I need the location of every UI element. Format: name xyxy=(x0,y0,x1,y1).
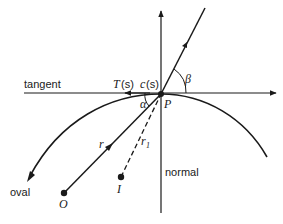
point-I xyxy=(118,174,124,180)
I-label: I xyxy=(116,182,122,196)
oval-arrow-head xyxy=(27,171,35,182)
T-arg-label: (s) xyxy=(121,78,134,90)
normal-label: normal xyxy=(165,166,199,178)
r1-sub-label: 1 xyxy=(146,141,150,150)
refracted-ray xyxy=(161,8,205,94)
beta-label: β xyxy=(184,72,191,86)
P-label: P xyxy=(163,97,172,111)
tangent-label: tangent xyxy=(24,78,61,90)
oval-label: oval xyxy=(10,186,30,198)
O-label: O xyxy=(59,197,68,211)
r-label: r xyxy=(99,137,104,151)
T-label: T xyxy=(113,77,121,91)
c-arg-label: (s) xyxy=(146,78,159,90)
point-O xyxy=(61,190,67,196)
oval-refraction-diagram: tangent normal oval T (s) c (s) β α P r … xyxy=(0,0,283,224)
alpha-label: α xyxy=(140,97,147,111)
